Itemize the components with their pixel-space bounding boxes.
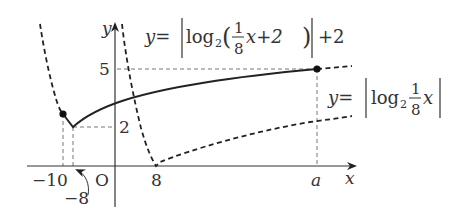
svg-text:2: 2 — [215, 37, 222, 50]
svg-text:8: 8 — [234, 40, 244, 58]
tick-y-5: 5 — [99, 59, 110, 79]
svg-text:x: x — [423, 87, 433, 108]
svg-text:8: 8 — [411, 101, 421, 119]
svg-text:log: log — [371, 87, 399, 108]
upper-curve-equation: y= log 2 ( 1 8 x+2 ) +2 — [144, 18, 345, 58]
svg-text:+2: +2 — [318, 26, 345, 47]
svg-text:1: 1 — [411, 80, 421, 98]
tick-x-a: a — [311, 170, 321, 190]
function-graph: y x O −10 −8 8 a 5 2 y= log 2 ( 1 8 x+2 … — [0, 0, 464, 222]
lower-curve-equation: y= log 2 1 8 x — [327, 78, 440, 119]
point-a-5 — [313, 65, 320, 72]
upper-curve-left-dashed — [40, 24, 63, 114]
svg-text:y=: y= — [144, 26, 170, 47]
x-axis-label: x — [345, 168, 355, 188]
svg-text:log: log — [186, 26, 214, 47]
point-x-minus10 — [59, 110, 66, 117]
tick-x-minus8: −8 — [64, 188, 89, 208]
tick-x-8: 8 — [151, 170, 162, 190]
svg-text:2: 2 — [400, 98, 407, 111]
upper-curve-right-dashed — [317, 66, 352, 69]
svg-text:y=: y= — [327, 87, 353, 108]
svg-text:): ) — [302, 23, 311, 51]
tick-y-2: 2 — [119, 117, 130, 137]
origin-label: O — [95, 170, 109, 190]
svg-text:1: 1 — [234, 19, 244, 37]
guide-lines — [63, 69, 317, 166]
svg-text:x+2: x+2 — [246, 26, 283, 47]
svg-text:(: ( — [222, 23, 231, 51]
tick-x-minus10: −10 — [32, 170, 68, 190]
y-axis-label: y — [101, 18, 112, 38]
